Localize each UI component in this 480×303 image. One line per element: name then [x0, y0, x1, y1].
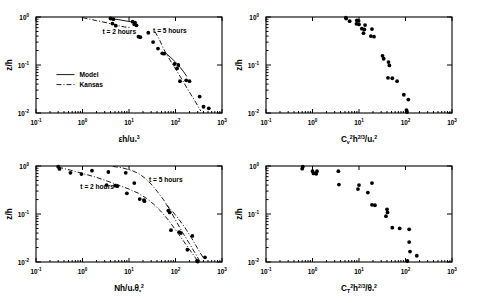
data-point: [372, 35, 376, 39]
data-point: [169, 228, 173, 232]
data-point: [124, 171, 128, 175]
data-point: [363, 23, 367, 27]
data-point: [162, 52, 166, 56]
x-tick-label: 10-1: [260, 267, 272, 275]
data-point: [185, 248, 189, 252]
data-point: [407, 227, 411, 231]
data-point: [406, 98, 410, 102]
x-tick-label: 101: [354, 267, 364, 275]
y-tick-label: 10-2: [248, 258, 260, 266]
data-point: [366, 191, 370, 195]
data-point: [402, 93, 406, 97]
x-tick-label: 102: [401, 118, 411, 126]
y-tick-label: 10-2: [248, 109, 260, 117]
data-point: [173, 62, 177, 66]
data-point: [362, 28, 366, 32]
x-tick-label: 102: [401, 267, 411, 275]
data-point: [336, 169, 340, 173]
panel-top-right-canvas: 10-110010110210310010-110-2z/hCv2h2/3/u*…: [230, 7, 468, 149]
data-point: [179, 231, 183, 235]
x-axis-label: CT2h2/3/θ*2: [341, 283, 377, 295]
data-point: [188, 79, 192, 83]
y-axis-label: z/h: [235, 208, 244, 219]
data-point: [390, 226, 394, 230]
x-tick-label: 103: [447, 118, 457, 126]
y-tick-label: 10-1: [18, 210, 30, 218]
y-tick-label: 100: [249, 13, 259, 21]
data-point: [395, 79, 399, 83]
data-point: [115, 184, 119, 188]
data-point: [407, 240, 411, 244]
x-tick-label: 100: [308, 118, 318, 126]
data-point: [203, 255, 207, 259]
y-tick-label: 10-1: [248, 210, 260, 218]
y-tick-label: 100: [249, 162, 259, 170]
data-point: [386, 211, 390, 215]
panel-top-right: 10-110010110210310010-110-2z/hCv2h2/3/u*…: [230, 7, 468, 149]
data-point: [69, 171, 73, 175]
panel-bottom-right-canvas: 10-110010110210310010-110-2z/hCT2h2/3/θ*…: [230, 156, 468, 298]
data-point: [198, 95, 202, 99]
data-point: [58, 167, 62, 171]
curve-kansas-2h: [83, 18, 131, 28]
data-point: [138, 197, 142, 201]
plot-annotation: t = 5 hours: [153, 27, 187, 34]
data-point: [111, 22, 115, 26]
data-point: [390, 76, 394, 80]
data-point: [138, 35, 142, 39]
data-point: [357, 183, 361, 187]
data-point: [357, 23, 361, 27]
data-point: [114, 24, 118, 28]
data-point: [348, 19, 352, 23]
plot-annotation: t = 2 hours: [80, 183, 114, 190]
x-tick-label: 101: [124, 267, 134, 275]
data-point: [106, 170, 110, 174]
x-tick-label: 102: [171, 118, 181, 126]
data-point: [125, 191, 129, 195]
y-tick-label: 100: [19, 13, 29, 21]
data-point: [373, 203, 377, 207]
data-point: [314, 172, 318, 176]
panel-bottom-left-canvas: 10-110010110210310010-110-2t = 2 hourst …: [0, 156, 238, 298]
curve-kansas-5h: [155, 31, 201, 111]
panel-bottom-right: 10-110010110210310010-110-2z/hCT2h2/3/θ*…: [230, 156, 468, 298]
data-point: [408, 250, 412, 254]
data-point: [151, 40, 155, 44]
plot-annotation: t = 5 hours: [149, 176, 183, 183]
data-point: [175, 66, 179, 70]
figure-root: 10-110010110210310010-110-2t = 2 hourst …: [0, 0, 480, 303]
data-point: [135, 23, 139, 27]
curve-model-5h: [166, 53, 187, 76]
data-point: [156, 47, 160, 51]
data-point: [207, 106, 211, 110]
plot-frame: [266, 166, 452, 262]
data-point: [386, 76, 390, 80]
x-tick-label: 100: [78, 267, 88, 275]
data-point: [344, 17, 348, 21]
plot-annotation: t = 2 hours: [103, 28, 137, 35]
data-point: [132, 181, 136, 185]
data-point: [370, 181, 374, 185]
y-axis-label: z/h: [5, 59, 14, 70]
data-point: [146, 31, 150, 35]
data-point: [384, 214, 388, 218]
data-point: [202, 105, 206, 109]
x-axis-label: εh/u*3: [118, 134, 139, 145]
y-axis-label: z/h: [235, 59, 244, 70]
data-point: [406, 259, 410, 263]
data-point: [398, 227, 402, 231]
x-tick-label: 10-1: [30, 267, 42, 275]
data-point: [111, 17, 115, 21]
plot-frame: [36, 166, 222, 262]
x-axis-label: Nh/u*θ*2: [114, 283, 144, 294]
y-tick-label: 100: [19, 162, 29, 170]
y-axis-label: z/h: [5, 208, 14, 219]
data-point: [405, 110, 409, 114]
data-point: [387, 64, 391, 68]
data-point: [415, 254, 419, 258]
data-point: [143, 199, 147, 203]
y-tick-label: 10-2: [18, 258, 30, 266]
x-tick-label: 100: [78, 118, 88, 126]
x-tick-label: 10-1: [260, 118, 272, 126]
data-point: [387, 60, 391, 64]
